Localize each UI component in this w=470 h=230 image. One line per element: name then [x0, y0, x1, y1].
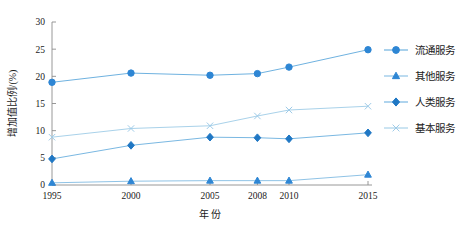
legend-item[interactable]: 基本服务 [384, 122, 456, 134]
x-tick-label: 2008 [248, 191, 267, 201]
x-axis-ticks: 199520002005200820102015 [43, 181, 378, 201]
data-point-marker [128, 178, 135, 184]
legend-item-label: 人类服务 [415, 96, 456, 108]
data-point-marker [49, 79, 55, 85]
chart-legend: 流通服务其他服务人类服务基本服务 [384, 44, 456, 134]
data-point-marker [286, 64, 292, 70]
y-tick-label: 30 [36, 17, 46, 27]
x-tick-label: 2010 [280, 191, 299, 201]
y-tick-label: 0 [40, 180, 45, 190]
legend-item-label: 基本服务 [415, 122, 456, 134]
data-point-marker [365, 47, 371, 53]
legend-item[interactable]: 其他服务 [384, 70, 456, 82]
data-point-marker [207, 177, 214, 183]
x-tick-label: 2015 [359, 191, 378, 201]
x-axis-title: 年 份 [199, 208, 222, 220]
legend-item-label: 流通服务 [415, 44, 456, 56]
data-point-marker [254, 70, 260, 76]
x-tick-label: 2005 [201, 191, 220, 201]
legend-marker-icon [392, 98, 399, 106]
data-point-marker [128, 141, 135, 149]
y-tick-label: 10 [36, 126, 46, 136]
chart-figure: 051015202530 199520002005200820102015 增加… [0, 0, 470, 230]
data-point-marker [207, 72, 213, 78]
data-point-marker [365, 171, 372, 177]
data-point-marker [254, 177, 261, 183]
chart-series-group [49, 47, 372, 186]
data-point-marker [365, 129, 372, 137]
series-line [52, 106, 368, 137]
legend-item[interactable]: 流通服务 [384, 44, 456, 56]
chart-axis-titles: 增加值比例/(%)年 份 [6, 70, 221, 220]
chart-series [49, 171, 372, 185]
y-tick-label: 20 [36, 72, 46, 82]
data-point-marker [128, 70, 134, 76]
data-point-marker [254, 134, 261, 142]
y-tick-label: 5 [40, 153, 45, 163]
legend-item[interactable]: 人类服务 [384, 96, 456, 108]
line-chart: 051015202530 199520002005200820102015 增加… [0, 0, 470, 230]
x-tick-label: 2000 [122, 191, 141, 201]
chart-series [49, 47, 371, 86]
y-tick-label: 15 [36, 99, 46, 109]
data-point-marker [49, 155, 56, 163]
chart-axes [52, 22, 372, 185]
y-axis-title: 增加值比例/(%) [6, 70, 19, 138]
legend-item-label: 其他服务 [415, 70, 456, 82]
legend-marker-icon [393, 47, 400, 54]
x-tick-label: 1995 [43, 191, 62, 201]
chart-series [49, 129, 372, 163]
y-tick-label: 25 [36, 45, 46, 55]
data-point-marker [207, 133, 214, 141]
y-axis-ticks: 051015202530 [36, 17, 57, 190]
data-point-marker [286, 135, 293, 143]
